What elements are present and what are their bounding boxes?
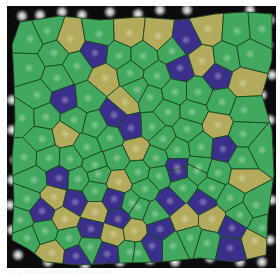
cell-center-marker [147, 122, 157, 132]
bright-spot [179, 2, 195, 18]
cell-center-marker [65, 34, 75, 44]
cell-center-marker [217, 97, 227, 107]
cell-center-marker [154, 171, 164, 181]
cell-center-marker [232, 26, 242, 36]
cell-center-marker [94, 29, 104, 39]
cell-center-marker [22, 233, 32, 243]
cell-center-marker [225, 193, 235, 203]
cell-center-marker [113, 214, 123, 224]
cell-center-marker [158, 134, 168, 144]
cell-center-marker [60, 129, 70, 139]
cell-center-marker [168, 241, 178, 251]
cell-center-marker [114, 177, 124, 187]
cell-center-marker [245, 49, 255, 59]
cell-center-marker [73, 174, 83, 184]
cell-center-marker [250, 236, 260, 246]
cell-center-marker [86, 224, 96, 234]
cell-center-marker [44, 153, 54, 163]
cell-center-marker [222, 53, 232, 63]
cell-center-marker [65, 154, 75, 164]
voronoi-figure [0, 0, 280, 276]
cell-center-marker [41, 112, 51, 122]
cell-center-marker [24, 63, 34, 73]
cell-center-marker [49, 48, 59, 58]
cell-center-marker [207, 183, 217, 193]
cell-center-marker [181, 35, 191, 45]
cell-center-marker [32, 90, 42, 100]
cell-center-marker [102, 249, 112, 259]
cell-center-marker [173, 166, 183, 176]
cell-center-marker [213, 168, 223, 178]
bright-spot [102, 4, 118, 20]
cell-center-marker [227, 223, 237, 233]
cell-center-marker [124, 28, 134, 38]
cell-center-marker [133, 248, 143, 258]
cell-center-marker [49, 192, 59, 202]
cell-center-marker [37, 134, 47, 144]
cell-center-marker [90, 120, 100, 130]
cell-center-marker [180, 214, 190, 224]
cell-center-marker [93, 169, 103, 179]
cell-center-marker [29, 175, 39, 185]
cell-center-marker [192, 166, 202, 176]
cell-center-marker [203, 24, 213, 34]
cell-center-marker [54, 173, 64, 183]
voronoi-svg [0, 0, 280, 276]
cell-center-marker [71, 251, 81, 261]
cell-center-marker [170, 87, 180, 97]
cell-center-marker [85, 242, 95, 252]
cell-center-marker [178, 183, 188, 193]
cell-center-marker [42, 26, 52, 36]
cell-center-marker [37, 206, 47, 216]
cell-center-marker [238, 129, 248, 139]
bright-spot [10, 247, 26, 263]
cell-center-marker [257, 24, 267, 34]
cell-center-marker [153, 31, 163, 41]
cell-center-marker [25, 34, 35, 44]
cell-center-marker [90, 186, 100, 196]
cell-center-marker [167, 46, 177, 56]
cell-center-marker [131, 144, 141, 154]
cell-center-marker [193, 87, 203, 97]
cell-center-marker [163, 107, 173, 117]
cell-center-marker [64, 233, 74, 243]
cell-center-marker [126, 123, 136, 133]
cell-center-marker [82, 142, 92, 152]
cell-center-marker [196, 142, 206, 152]
cell-center-marker [207, 214, 217, 224]
cell-center-marker [145, 92, 155, 102]
cell-center-marker [40, 226, 50, 236]
cell-center-marker [237, 155, 247, 165]
cell-green [230, 96, 270, 123]
cell-center-marker [83, 93, 93, 103]
cell-center-marker [155, 224, 165, 234]
cell-center-marker [105, 133, 115, 143]
cell-center-marker [69, 115, 79, 125]
cell-center-marker [60, 214, 70, 224]
cell-center-marker [198, 197, 208, 207]
cell-center-marker [213, 120, 223, 130]
cell-center-marker [60, 95, 70, 105]
cell-center-marker [90, 207, 100, 217]
cell-center-marker [120, 97, 130, 107]
cell-center-marker [109, 194, 119, 204]
cell-center-marker [257, 223, 267, 233]
figure-caption: Fig. 1 Voronoi tessellation of surface s… [8, 268, 112, 274]
cell-center-marker [257, 145, 267, 155]
cell-center-marker [251, 200, 261, 210]
cell-center-marker [182, 124, 192, 134]
cell-center-marker [165, 196, 175, 206]
cell-center-marker [235, 210, 245, 220]
cell-center-marker [185, 233, 195, 243]
cell-center-marker [147, 241, 157, 251]
cell-center-marker [202, 238, 212, 248]
voronoi-cells-layer [12, 12, 274, 265]
cell-center-marker [218, 144, 228, 154]
cell-center-marker [152, 71, 162, 81]
cell-center-marker [175, 63, 185, 73]
cell-center-marker [187, 107, 197, 117]
cell-center-marker [114, 51, 124, 61]
cell-center-marker [132, 85, 142, 95]
cell-center-marker [237, 173, 247, 183]
cell-center-marker [238, 78, 248, 88]
